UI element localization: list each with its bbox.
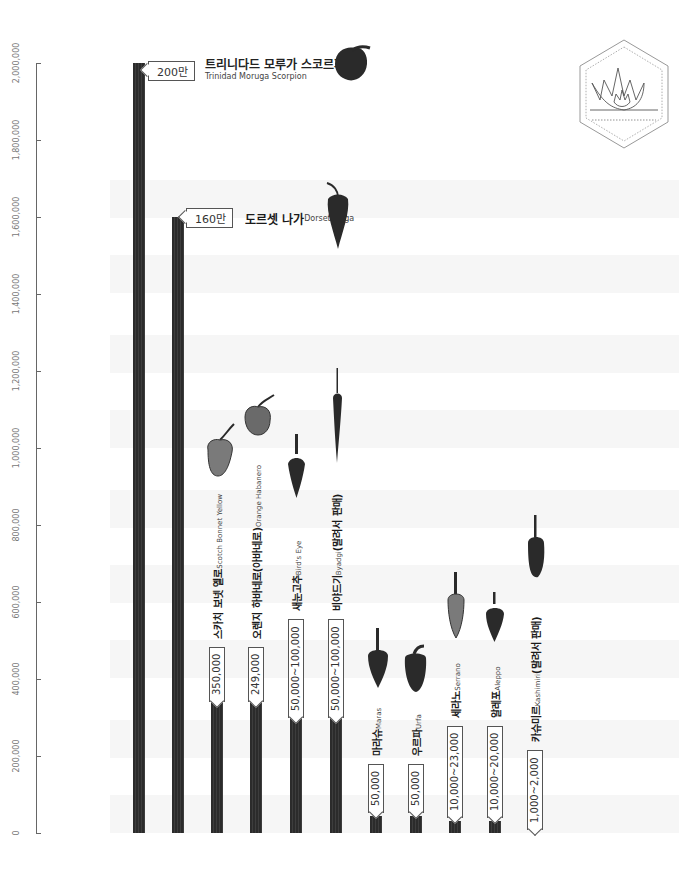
bonnet-pepper-icon — [200, 420, 245, 480]
y-tick-label: 200,000 — [12, 711, 22, 801]
y-tick-label: 800,000 — [12, 480, 22, 570]
y-tick-label: 1,200,000 — [12, 326, 22, 416]
y-tick-label: 1,800,000 — [12, 95, 22, 185]
value-box: 10,000~20,000 — [487, 726, 503, 818]
y-axis-tick — [36, 63, 41, 64]
name-ko: 오렌지 하바네로(아바네로) — [252, 527, 263, 639]
round-pepper-icon — [330, 42, 380, 87]
name-en: Bird's Eye — [295, 541, 303, 576]
value-box: 50,000~100,000 — [288, 619, 304, 718]
name-suffix: (말려서 판매) — [531, 616, 542, 674]
bg-band — [110, 410, 679, 448]
label-habanero: 249,000 오렌지 하바네로(아바네로)Orange Habanero — [248, 465, 264, 702]
name-en: Serrano — [454, 663, 462, 690]
y-tick-label: 600,000 — [12, 557, 22, 647]
label-kashmiri: 1,000~2,000 카슈미르Kashimiri(말려서 판매) — [527, 616, 543, 830]
name-ko: 도르셋 나가 — [245, 210, 304, 227]
name-ko: 마라슈 — [372, 729, 383, 756]
bar-habanero — [250, 699, 262, 833]
bar-byadgi — [330, 718, 342, 833]
label-scotch-bonnet: 350,000 스카치 보넷 옐로Scotch Bonnet Yellow — [209, 494, 225, 702]
flame-hexagon-icon — [578, 38, 670, 150]
y-tick-label: 400,000 — [12, 634, 22, 724]
name-ko: 비야드기 — [332, 575, 343, 611]
name-en: Byadgi — [335, 551, 343, 575]
value-box: 1,000~2,000 — [527, 750, 543, 830]
y-axis-tick — [36, 448, 41, 449]
y-axis-tick — [36, 679, 41, 680]
kashmiri-icon — [524, 515, 548, 590]
name: 세라노Serrano — [448, 663, 463, 717]
y-tick-label: 2,000,000 — [12, 18, 22, 108]
name-en: Maras — [375, 708, 383, 729]
value-box: 50,000 — [408, 764, 424, 813]
byadgi-icon — [330, 368, 346, 468]
bg-band — [110, 565, 679, 603]
urfa-icon — [402, 640, 430, 700]
y-axis-tick — [36, 833, 41, 834]
name: 스카치 보넷 옐로Scotch Bonnet Yellow — [210, 494, 225, 639]
name-en: Orange Habanero — [255, 465, 263, 527]
value-box: 350,000 — [209, 647, 225, 702]
value-box: 10,000~23,000 — [447, 726, 463, 818]
label-serrano: 10,000~23,000 세라노Serrano — [447, 663, 463, 818]
name-ko: 알레포 — [491, 691, 502, 718]
name-ko: 스카치 보넷 옐로 — [213, 569, 224, 639]
bg-band — [110, 720, 679, 758]
value-box: 50,000 — [368, 764, 384, 813]
bg-band — [110, 490, 679, 528]
bar-birds-eye — [290, 718, 302, 833]
value-box: 249,000 — [248, 647, 264, 702]
name: 마라슈Maras — [369, 708, 384, 756]
y-axis-tick — [36, 140, 41, 141]
value-box: 160만 — [186, 208, 233, 228]
bg-band — [110, 640, 679, 678]
long-pepper-icon — [322, 173, 352, 253]
y-axis-tick — [36, 294, 41, 295]
bg-band — [110, 255, 679, 293]
name-suffix: (말려서 판매) — [332, 494, 343, 552]
bg-band — [110, 795, 679, 833]
serrano-icon — [444, 572, 468, 647]
y-axis-tick — [36, 217, 41, 218]
y-axis-tick — [36, 602, 41, 603]
name: 카슈미르Kashimiri(말려서 판매) — [528, 616, 543, 742]
name-ko: 세라노 — [451, 691, 462, 718]
name-en: Scotch Bonnet Yellow — [216, 494, 224, 569]
label-byadgi: 50,000~100,000 비야드기Byadgi(말려서 판매) — [328, 494, 344, 718]
name-en: Kashimiri — [534, 674, 542, 706]
y-tick-label: 1,400,000 — [12, 249, 22, 339]
y-axis-tick — [36, 525, 41, 526]
bar-dorset — [172, 217, 184, 833]
label-aleppo: 10,000~20,000 알레포Aleppo — [487, 666, 503, 818]
name-en: Urfa — [415, 714, 423, 729]
y-tick-label: 1,600,000 — [12, 172, 22, 262]
name: 알레포Aleppo — [488, 666, 503, 717]
y-axis-tick — [36, 371, 41, 372]
value-box: 50,000~100,000 — [328, 619, 344, 718]
name: 오렌지 하바네로(아바네로)Orange Habanero — [249, 465, 264, 639]
y-axis-tick — [36, 756, 41, 757]
habanero-icon — [240, 395, 285, 455]
value-box: 200만 — [148, 61, 195, 81]
name-en: Aleppo — [494, 666, 502, 690]
label-urfa: 50,000 우르파Urfa — [408, 714, 424, 813]
maras-icon — [366, 628, 390, 698]
label-trinidad: 200만 트리니다드 모루가 스코르피언 Trinidad Moruga Sco… — [148, 59, 356, 83]
y-tick-label: 1,000,000 — [12, 403, 22, 493]
name: 비야드기Byadgi(말려서 판매) — [329, 494, 344, 612]
y-tick-label: 0 — [12, 788, 22, 878]
name: 새눈고추Bird's Eye — [289, 541, 304, 612]
label-maras: 50,000 마라슈Maras — [368, 708, 384, 813]
name-ko: 우르파 — [412, 729, 423, 756]
label-birds-eye: 50,000~100,000 새눈고추Bird's Eye — [288, 541, 304, 718]
name-ko: 카슈미르 — [531, 706, 542, 742]
bar-scotch-bonnet — [211, 698, 223, 833]
bg-band — [110, 335, 679, 373]
bar-trinidad — [133, 63, 145, 833]
name: 우르파Urfa — [409, 714, 424, 756]
aleppo-icon — [484, 592, 506, 652]
birds-eye-icon — [285, 434, 309, 514]
name-ko: 새눈고추 — [292, 575, 303, 611]
